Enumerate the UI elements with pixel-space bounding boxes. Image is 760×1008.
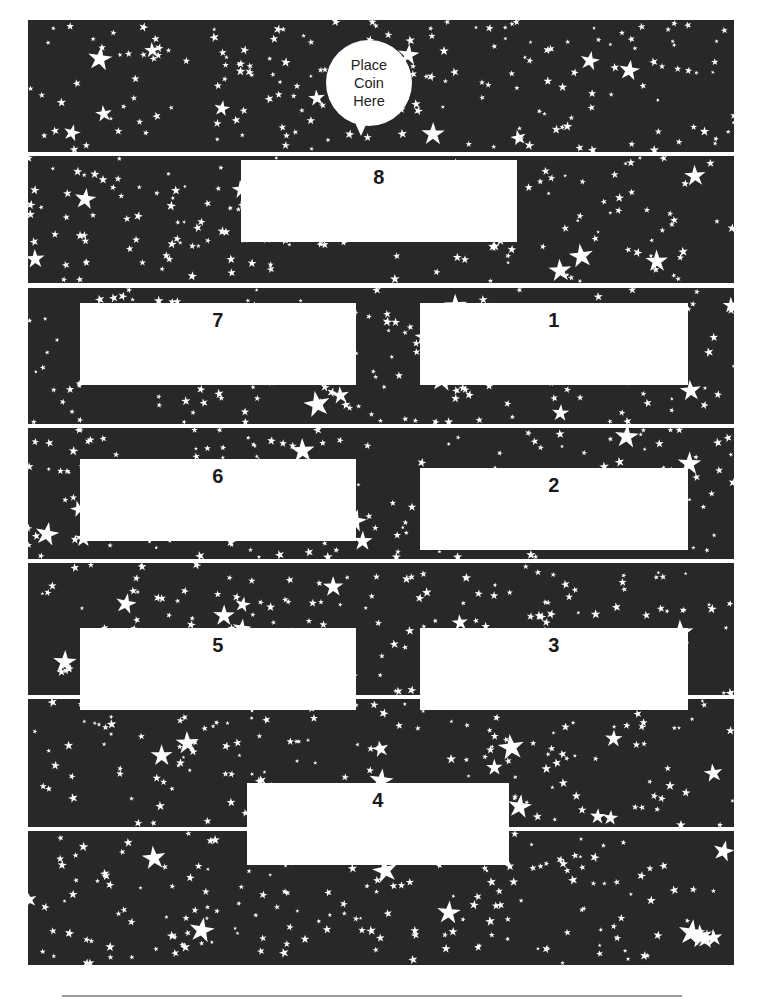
coin-slot-8[interactable]: 8	[241, 160, 517, 242]
slot-number-label: 1	[420, 309, 688, 332]
place-coin-here-balloon[interactable]: Place Coin Here	[326, 40, 412, 132]
slot-number-label: 7	[80, 309, 356, 332]
slot-number-label: 2	[420, 474, 688, 497]
coin-slot-5[interactable]: 5	[80, 628, 356, 710]
balloon-line-2: Coin	[326, 74, 412, 92]
slot-number-label: 6	[80, 465, 356, 488]
balloon-tail-icon	[353, 118, 369, 136]
slot-number-label: 8	[241, 166, 517, 189]
slot-number-label: 5	[80, 634, 356, 657]
coin-slot-4[interactable]: 4	[247, 783, 509, 865]
coin-slot-3[interactable]: 3	[420, 628, 688, 710]
worksheet-page: Place Coin Here 8 7 1 6 2 5 3 4	[0, 0, 760, 1008]
balloon-line-1: Place	[326, 56, 412, 74]
balloon-text: Place Coin Here	[326, 56, 412, 110]
coin-slot-7[interactable]: 7	[80, 303, 356, 385]
slot-number-label: 4	[247, 789, 509, 812]
balloon-line-3: Here	[326, 92, 412, 110]
footer-rule	[62, 995, 682, 997]
coin-slot-2[interactable]: 2	[420, 468, 688, 550]
coin-slot-6[interactable]: 6	[80, 459, 356, 541]
coin-slot-1[interactable]: 1	[420, 303, 688, 385]
slot-number-label: 3	[420, 634, 688, 657]
